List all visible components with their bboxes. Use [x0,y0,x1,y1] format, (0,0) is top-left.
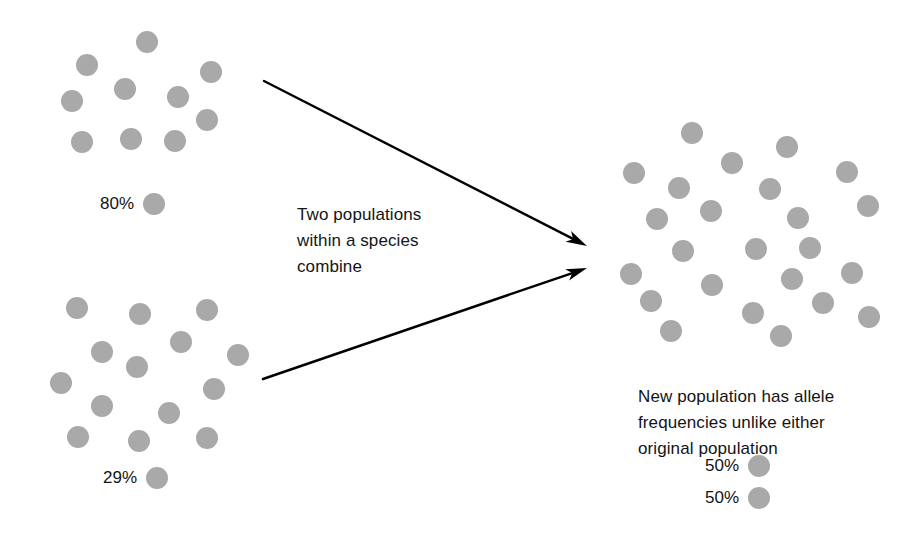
legend-bottom-left-frequency: 29% [103,467,168,489]
caption-line: combine [297,254,421,280]
legend-merged-frequency-b: 50% [705,487,770,509]
caption-line: Two populations [297,202,421,228]
caption-line: frequencies unlike either [638,410,834,436]
arrow-top-to-merged-head [566,231,587,246]
legend-top-left-frequency: 80% [100,193,165,215]
legend-top-left-label: 80% [100,194,134,214]
allele-dot-icon [748,487,770,509]
caption-line: within a species [297,228,421,254]
caption-line: original population [638,436,834,462]
arrow-bottom-to-merged-shaft [263,273,574,379]
caption-combine: Two populationswithin a speciescombine [297,202,421,280]
legend-bottom-left-label: 29% [103,468,137,488]
arrow-layer [0,0,909,547]
caption-line: New population has allele [638,384,834,410]
legend-merged-label-b: 50% [705,488,739,508]
allele-dot-icon [143,193,165,215]
allele-frequency-diagram: 80% 29% 50% 50% Two populationswithin a … [0,0,909,547]
allele-dot-icon [146,467,168,489]
caption-result: New population has allelefrequencies unl… [638,384,834,462]
